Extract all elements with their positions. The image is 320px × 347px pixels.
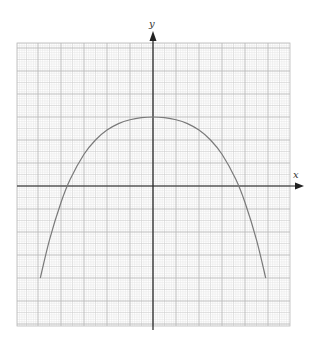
x-axis-arrow-icon	[295, 183, 304, 190]
y-axis-label: y	[148, 18, 155, 29]
y-axis-arrow-icon	[150, 31, 157, 41]
graph-chart: x y	[0, 0, 320, 347]
x-axis-label: x	[293, 169, 299, 180]
